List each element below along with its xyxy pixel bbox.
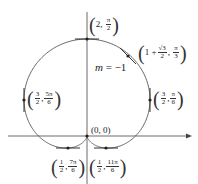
point-top: [85, 37, 88, 40]
label-11pi-6-point: ( 12 , 11π6 ): [89, 156, 126, 176]
label-top-point: ( 2, π2 ): [89, 14, 119, 34]
point-5pi-6: [22, 98, 25, 101]
point-origin: [85, 134, 88, 137]
label-7pi-6-point: ( 12 , 7π6 ): [51, 156, 85, 176]
label-origin: (0, 0): [91, 125, 111, 135]
label-pi-3-point: ( 1 + √32 , π3 ): [138, 42, 187, 62]
label-5pi-6-point: ( 32 , 5π6 ): [27, 88, 61, 108]
point-11pi-6: [104, 146, 107, 149]
point-7pi-6: [66, 146, 69, 149]
point-pi-3: [126, 54, 129, 57]
label-pi-6-point: ( 32 , π6 ): [153, 88, 184, 108]
point-pi-6: [148, 98, 151, 101]
slope-annotation: m = −1: [95, 61, 126, 73]
x-axis-arrow-icon: [186, 134, 192, 139]
